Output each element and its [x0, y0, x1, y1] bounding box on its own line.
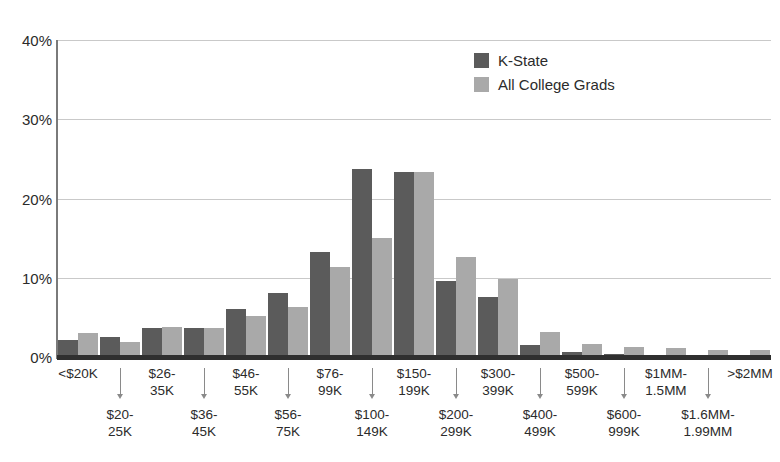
- legend-label-k-state: K-State: [498, 52, 548, 69]
- x-axis-category-label: $1.6MM- 1.99MM: [651, 406, 764, 440]
- bar-group: [57, 40, 99, 357]
- legend-item-k-state[interactable]: K-State: [474, 48, 615, 72]
- bar-group: [183, 40, 225, 357]
- bar-group: [267, 40, 309, 357]
- legend-item-all-college-grads[interactable]: All College Grads: [474, 72, 615, 96]
- bar-group: [687, 40, 729, 357]
- chart-legend: K-State All College Grads: [474, 48, 615, 96]
- bar-all-college-grads[interactable]: [540, 332, 560, 357]
- y-axis-tick-label: 40%: [4, 32, 52, 49]
- y-axis-tick-label: 30%: [4, 111, 52, 128]
- bar-group: [351, 40, 393, 357]
- y-axis-tick-label: 10%: [4, 269, 52, 286]
- x-axis-category-label: >$2MM: [693, 365, 780, 382]
- bar-k-state[interactable]: [478, 297, 498, 357]
- bar-all-college-grads[interactable]: [204, 328, 224, 357]
- legend-swatch-k-state: [474, 53, 489, 68]
- bar-all-college-grads[interactable]: [372, 238, 392, 357]
- bar-group: [99, 40, 141, 357]
- bar-all-college-grads[interactable]: [162, 327, 182, 357]
- bar-k-state[interactable]: [394, 172, 414, 357]
- bar-all-college-grads[interactable]: [288, 307, 308, 357]
- bar-group: [435, 40, 477, 357]
- legend-label-all-college-grads: All College Grads: [498, 76, 615, 93]
- bar-all-college-grads[interactable]: [330, 267, 350, 357]
- bar-all-college-grads[interactable]: [456, 257, 476, 357]
- y-axis-tick-label: 0%: [4, 349, 52, 366]
- bar-k-state[interactable]: [226, 309, 246, 357]
- x-axis-category-labels: <$20K$20- 25K$26- 35K$36- 45K$46- 55K$56…: [57, 360, 771, 462]
- y-axis-line: [56, 40, 58, 359]
- bar-k-state[interactable]: [310, 252, 330, 357]
- bar-groups: [57, 40, 771, 357]
- y-axis-tick-label: 20%: [4, 190, 52, 207]
- bar-k-state[interactable]: [142, 328, 162, 357]
- bar-group: [645, 40, 687, 357]
- bar-all-college-grads[interactable]: [498, 279, 518, 357]
- bar-k-state[interactable]: [436, 281, 456, 357]
- bar-all-college-grads[interactable]: [246, 316, 266, 357]
- legend-swatch-all-college-grads: [474, 77, 489, 92]
- income-distribution-bar-chart: 0%10%20%30%40% <$20K$20- 25K$26- 35K$36-…: [0, 0, 780, 462]
- bar-group: [225, 40, 267, 357]
- bar-group: [309, 40, 351, 357]
- bar-all-college-grads[interactable]: [78, 333, 98, 357]
- bar-k-state[interactable]: [184, 328, 204, 357]
- bar-group: [729, 40, 771, 357]
- bar-all-college-grads[interactable]: [414, 172, 434, 357]
- bar-group: [393, 40, 435, 357]
- plot-area: [57, 40, 771, 357]
- y-axis-tick-labels: 0%10%20%30%40%: [0, 0, 52, 462]
- bar-k-state[interactable]: [268, 293, 288, 357]
- bar-k-state[interactable]: [352, 169, 372, 357]
- bar-group: [141, 40, 183, 357]
